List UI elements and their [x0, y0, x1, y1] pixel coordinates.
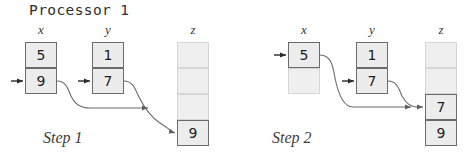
merge-wire-y-to-z-step1	[124, 81, 175, 133]
compare-wire-x-step1	[57, 81, 148, 108]
connector-overlay	[0, 0, 476, 165]
merge-diagram-canvas: Processor 1 x 5 9 y 1 7 z 9 Step 1 x 5 y…	[0, 0, 476, 165]
compare-wire-x-step2	[320, 55, 411, 107]
merge-wire-y-to-z-step2	[388, 81, 423, 107]
